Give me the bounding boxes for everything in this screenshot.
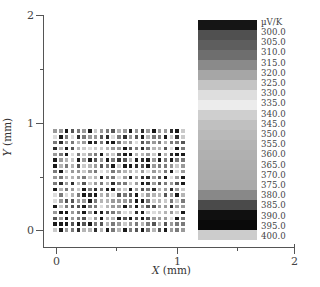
colorbar-level-label: 355.0: [261, 140, 286, 149]
colorbar-level-label: 380.0: [261, 191, 286, 200]
measurement-dot: [123, 176, 126, 179]
measurement-dot: [123, 228, 126, 231]
measurement-dot: [65, 211, 68, 214]
measurement-dot: [88, 176, 91, 179]
measurement-dot: [146, 141, 149, 144]
colorbar-level-label: 385.0: [261, 201, 286, 210]
measurement-dot: [123, 158, 126, 161]
measurement-dot: [94, 182, 97, 185]
measurement-dot: [71, 135, 74, 138]
measurement-dot: [111, 222, 114, 225]
measurement-dot: [146, 153, 149, 156]
measurement-dot: [141, 211, 144, 214]
measurement-dot: [71, 217, 74, 220]
measurement-dot: [175, 182, 178, 185]
colorbar-segment: [198, 110, 257, 120]
measurement-dot: [65, 164, 68, 167]
measurement-dot: [146, 211, 149, 214]
measurement-dot: [141, 170, 144, 173]
measurement-dot: [71, 170, 74, 173]
measurement-dot: [152, 170, 155, 173]
measurement-dot: [59, 222, 62, 225]
measurement-dot: [164, 188, 167, 191]
measurement-dot: [152, 217, 155, 220]
colorbar-level-label: 310.0: [261, 48, 286, 57]
measurement-dot: [129, 193, 132, 196]
measurement-dot: [53, 170, 56, 173]
measurement-dot: [170, 135, 173, 138]
colorbar-segment: [198, 220, 257, 230]
measurement-dot: [82, 188, 85, 191]
measurement-dot: [59, 153, 62, 156]
measurement-dot: [82, 199, 85, 202]
measurement-dot: [135, 182, 138, 185]
measurement-dot: [59, 188, 62, 191]
measurement-dot: [77, 129, 80, 132]
measurement-dot: [100, 147, 103, 150]
measurement-dot: [123, 205, 126, 208]
measurement-dot: [100, 228, 103, 231]
measurement-dot: [111, 217, 114, 220]
measurement-dot: [77, 188, 80, 191]
measurement-dot: [94, 222, 97, 225]
measurement-dot: [141, 176, 144, 179]
colorbar-level-label: 345.0: [261, 120, 286, 129]
measurement-dot: [65, 222, 68, 225]
measurement-dot: [123, 193, 126, 196]
measurement-dot: [152, 182, 155, 185]
colorbar-level-label: 325.0: [261, 79, 286, 88]
measurement-dot: [146, 228, 149, 231]
measurement-dot: [164, 217, 167, 220]
colorbar-segment: [198, 160, 257, 170]
measurement-dot: [135, 199, 138, 202]
measurement-dot: [141, 188, 144, 191]
measurement-dot: [135, 158, 138, 161]
measurement-dot: [158, 153, 161, 156]
measurement-dot: [94, 158, 97, 161]
measurement-dot: [53, 158, 56, 161]
measurement-dot: [88, 129, 91, 132]
measurement-dot: [170, 182, 173, 185]
measurement-dot: [94, 217, 97, 220]
measurement-dot: [106, 158, 109, 161]
measurement-dot: [181, 158, 184, 161]
measurement-dot: [181, 170, 184, 173]
measurement-dot: [53, 193, 56, 196]
measurement-dot: [181, 228, 184, 231]
measurement-dot: [53, 182, 56, 185]
measurement-dot: [181, 129, 184, 132]
measurement-dot: [164, 176, 167, 179]
measurement-dot: [129, 199, 132, 202]
colorbar-level-label: 365.0: [261, 161, 286, 170]
measurement-dot: [152, 222, 155, 225]
measurement-dot: [135, 205, 138, 208]
measurement-dot: [164, 153, 167, 156]
measurement-dot: [71, 153, 74, 156]
measurement-dot: [146, 217, 149, 220]
measurement-dot: [129, 141, 132, 144]
measurement-dot: [106, 170, 109, 173]
colorbar-level-label: 395.0: [261, 222, 286, 231]
measurement-dot: [117, 217, 120, 220]
measurement-dot: [65, 153, 68, 156]
measurement-dot: [146, 222, 149, 225]
measurement-dot: [65, 193, 68, 196]
measurement-dot: [111, 211, 114, 214]
measurement-dot: [53, 176, 56, 179]
measurement-dot: [111, 129, 114, 132]
measurement-dot: [111, 193, 114, 196]
measurement-dot: [152, 135, 155, 138]
measurement-dot: [106, 193, 109, 196]
measurement-dot: [152, 147, 155, 150]
measurement-dot: [53, 199, 56, 202]
colorbar-level-label: 370.0: [261, 171, 286, 180]
measurement-dot: [65, 188, 68, 191]
measurement-dot: [106, 211, 109, 214]
measurement-dot: [123, 199, 126, 202]
measurement-dot: [152, 153, 155, 156]
measurement-dot: [158, 182, 161, 185]
measurement-dot: [59, 135, 62, 138]
measurement-dot: [141, 141, 144, 144]
measurement-dot: [77, 176, 80, 179]
measurement-dot: [82, 135, 85, 138]
